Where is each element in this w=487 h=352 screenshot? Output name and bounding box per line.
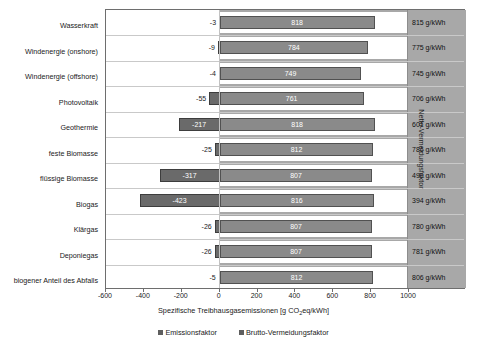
emission-bar-value: -423 [140, 194, 220, 207]
category-label: biogener Anteil des Abfalls [0, 276, 101, 285]
avoidance-bar-value: 816 [220, 194, 375, 207]
emission-bar-value: -26 [179, 220, 212, 233]
bar-row: -4749745 g/kWh [106, 61, 464, 86]
emission-bar-value: -26 [179, 245, 212, 258]
netto-value: 775 g/kWh [407, 41, 464, 54]
category-label: Biogas [0, 200, 101, 209]
plot-area: -3818815 g/kWh-9784775 g/kWh-4749745 g/k… [105, 9, 465, 289]
legend-label: Emissionsfaktor [165, 328, 217, 337]
avoidance-bar-value: 807 [220, 220, 373, 233]
x-tick-label: 600 [326, 292, 338, 299]
x-tick-label: 400 [289, 292, 301, 299]
category-label: Klärgas [0, 225, 101, 234]
legend-item[interactable]: Brutto-Vermeidungsfaktor [239, 328, 329, 337]
avoidance-bar-value: 818 [220, 16, 375, 29]
chart-root: WasserkraftWindenergie (onshore)Windener… [0, 0, 487, 352]
category-label: flüssige Biomasse [0, 174, 101, 183]
bar-row: -317807490 g/kWh [106, 163, 464, 188]
bar-row: -9784775 g/kWh [106, 35, 464, 60]
x-tick-label: -600 [98, 292, 112, 299]
right-axis-title: Netto-Vermeidungsfaktor [418, 109, 427, 189]
category-label: Deponiegas [0, 251, 101, 260]
bar-row: -423816394 g/kWh [106, 188, 464, 213]
netto-value: 786 g/kWh [407, 143, 464, 156]
bar-row: -5812806 g/kWh [106, 265, 464, 290]
netto-value: 806 g/kWh [407, 271, 464, 284]
legend-label: Brutto-Vermeidungsfaktor [246, 328, 329, 337]
avoidance-bar-value: 812 [220, 143, 374, 156]
emission-bar-value: -55 [173, 92, 206, 105]
x-tick-label: -400 [136, 292, 150, 299]
emission-bar-value: -3 [183, 16, 216, 29]
emission-bar-value: -25 [179, 143, 212, 156]
bar-row: -3818815 g/kWh [106, 10, 464, 35]
category-label: feste Biomasse [0, 149, 101, 158]
x-tick-label: 800 [364, 292, 376, 299]
avoidance-bar-value: 818 [220, 118, 375, 131]
netto-value: 781 g/kWh [407, 245, 464, 258]
bar-row: -26807781 g/kWh [106, 239, 464, 264]
avoidance-bar-value: 784 [220, 41, 368, 54]
emission-bar-value: -317 [160, 169, 220, 182]
emission-bar-value: -5 [183, 271, 216, 284]
category-label: Geothermie [0, 123, 101, 132]
netto-value: 490 g/kWh [407, 169, 464, 182]
category-label: Wasserkraft [0, 21, 101, 30]
netto-value: 815 g/kWh [407, 16, 464, 29]
emission-bar-value: -9 [182, 41, 215, 54]
avoidance-bar-value: 761 [220, 92, 364, 105]
netto-value: 601 g/kWh [407, 118, 464, 131]
netto-value: 706 g/kWh [407, 92, 464, 105]
emission-bar-value: -4 [183, 67, 216, 80]
avoidance-bar-value: 807 [220, 245, 373, 258]
avoidance-bar-value: 807 [220, 169, 373, 182]
category-label: Windenergie (offshore) [0, 72, 101, 81]
emission-bar-value: -217 [179, 118, 220, 131]
legend-item[interactable]: Emissionsfaktor [158, 328, 217, 337]
netto-value: 394 g/kWh [407, 194, 464, 207]
bar-rows: -3818815 g/kWh-9784775 g/kWh-4749745 g/k… [106, 10, 464, 288]
bar-row: -217818601 g/kWh [106, 112, 464, 137]
bar-row: -25812786 g/kWh [106, 137, 464, 162]
zero-axis-line [219, 10, 220, 288]
x-tick-label: 200 [251, 292, 263, 299]
netto-value: 780 g/kWh [407, 220, 464, 233]
x-axis-title: Spezifische Treibhausgasemissionen [g CO… [0, 306, 487, 315]
x-tick-label: 0 [217, 292, 221, 299]
legend-swatch-icon [239, 330, 244, 335]
netto-value: 745 g/kWh [407, 67, 464, 80]
x-tick-label: 1000 [400, 292, 416, 299]
bar-row: -55761706 g/kWh [106, 86, 464, 111]
avoidance-bar-value: 812 [220, 271, 374, 284]
x-axis: -600-400-20002004006008001000 [105, 289, 465, 303]
legend-swatch-icon [158, 330, 163, 335]
chart-legend: EmissionsfaktorBrutto-Vermeidungsfaktor [0, 328, 487, 337]
category-label: Photovoltaik [0, 98, 101, 107]
avoidance-bar-value: 749 [220, 67, 362, 80]
category-label: Windenergie (onshore) [0, 47, 101, 56]
bar-row: -26807780 g/kWh [106, 214, 464, 239]
x-tick-label: -200 [174, 292, 188, 299]
